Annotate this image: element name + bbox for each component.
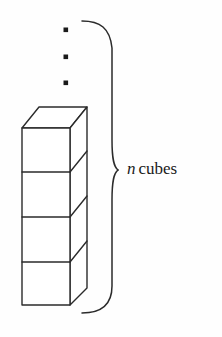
label-word-cubes: cubes (139, 159, 178, 178)
label-layer: ncubes (0, 0, 222, 337)
figure-canvas: ncubes (0, 0, 222, 337)
brace-label: ncubes (127, 160, 177, 177)
label-variable-n: n (127, 159, 139, 178)
